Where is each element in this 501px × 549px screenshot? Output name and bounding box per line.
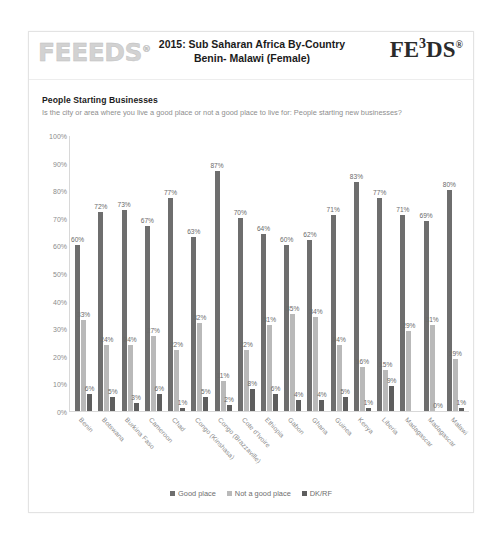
- x-axis-label-cell: Liberia: [374, 414, 397, 466]
- bar[interactable]: 5%: [343, 397, 348, 411]
- bar[interactable]: 73%: [122, 210, 127, 411]
- bar[interactable]: 62%: [307, 240, 312, 411]
- bar[interactable]: 77%: [168, 198, 173, 411]
- bar[interactable]: 24%: [337, 345, 342, 411]
- bar-value-label: 8%: [247, 380, 257, 388]
- page-title-line1: 2015: Sub Saharan Africa By-Country: [147, 37, 357, 51]
- bar-value-label: 11%: [217, 372, 230, 380]
- x-axis-label-cell: Burkina Faso: [118, 414, 141, 466]
- bar-value-label: 1%: [457, 399, 467, 407]
- bar[interactable]: 24%: [104, 345, 109, 411]
- bar[interactable]: 60%: [75, 245, 80, 411]
- feeeds-logo-text: FEEEDS: [38, 38, 142, 67]
- bar[interactable]: 29%: [406, 331, 411, 411]
- bar[interactable]: 5%: [110, 397, 115, 411]
- bar-group: 62%34%4%: [304, 136, 327, 411]
- legend-label: Not a good place: [235, 489, 291, 498]
- bar-value-label: 22%: [240, 341, 253, 349]
- bar-group: 80%19%1%: [444, 136, 467, 411]
- bar[interactable]: 27%: [151, 336, 156, 411]
- bar[interactable]: 67%: [145, 226, 150, 411]
- page-title: 2015: Sub Saharan Africa By-Country Beni…: [147, 37, 357, 65]
- bar-value-label: 33%: [77, 311, 90, 319]
- bar[interactable]: 31%: [267, 325, 272, 411]
- bar[interactable]: 71%: [331, 215, 336, 411]
- bar-value-label: 34%: [309, 308, 322, 316]
- bar[interactable]: 1%: [180, 408, 185, 411]
- bar-group: 70%22%8%: [235, 136, 258, 411]
- bar[interactable]: 15%: [383, 370, 388, 411]
- bar[interactable]: 71%: [400, 215, 405, 411]
- x-axis-label-cell: Benin: [71, 414, 94, 466]
- bar-value-label: 70%: [234, 209, 247, 217]
- y-axis-tick: 30%: [53, 326, 67, 333]
- bar-value-label: 1%: [364, 399, 374, 407]
- bar[interactable]: 83%: [354, 182, 359, 411]
- x-axis-label-cell: Ethiopia: [257, 414, 280, 466]
- x-axis-label: Chad: [171, 416, 187, 433]
- bar[interactable]: 63%: [191, 237, 196, 411]
- bar[interactable]: 31%: [430, 325, 435, 411]
- bar-value-label: 72%: [94, 203, 107, 211]
- y-axis-tick: 90%: [53, 160, 67, 167]
- bar[interactable]: 33%: [81, 320, 86, 411]
- bar-value-label: 71%: [327, 206, 340, 214]
- x-axis-label-cell: Cameroon: [141, 414, 164, 466]
- bar-value-label: 5%: [108, 388, 118, 396]
- bar-group: 67%27%6%: [142, 136, 165, 411]
- bar-value-label: 32%: [193, 314, 206, 322]
- bar-value-label: 67%: [141, 217, 154, 225]
- legend-label: Good place: [178, 489, 216, 498]
- bar[interactable]: 4%: [319, 400, 324, 411]
- fe3ds-logo-registered: ®: [456, 39, 463, 50]
- fe3ds-logo: FE3DS®: [390, 36, 463, 63]
- bar[interactable]: 1%: [366, 408, 371, 411]
- bar[interactable]: 9%: [389, 386, 394, 411]
- legend-item[interactable]: DK/RF: [302, 489, 332, 498]
- bar-value-label: 77%: [373, 189, 386, 197]
- legend-swatch: [302, 491, 307, 496]
- bar[interactable]: 6%: [157, 394, 162, 411]
- bar-value-label: 60%: [280, 236, 293, 244]
- bar[interactable]: 2%: [227, 405, 232, 411]
- bar-group: 72%24%5%: [95, 136, 118, 411]
- report-card: FEEEDS® 2015: Sub Saharan Africa By-Coun…: [28, 31, 474, 513]
- bar[interactable]: 60%: [284, 245, 289, 411]
- y-axis-tick: 100%: [49, 133, 67, 140]
- x-axis-label: Malawi: [450, 416, 470, 436]
- legend-item[interactable]: Good place: [170, 489, 216, 498]
- legend-swatch: [227, 491, 232, 496]
- bar[interactable]: 3%: [134, 403, 139, 411]
- bar-value-label: 2%: [224, 396, 234, 404]
- bar[interactable]: 6%: [87, 394, 92, 411]
- legend-item[interactable]: Not a good place: [227, 489, 291, 498]
- bar[interactable]: 5%: [203, 397, 208, 411]
- bar[interactable]: 80%: [447, 190, 452, 411]
- x-axis-label-cell: Guinea: [327, 414, 350, 466]
- bar[interactable]: 70%: [238, 218, 243, 411]
- plot-area: 60%33%6%72%24%5%73%24%3%67%27%6%77%22%1%…: [69, 136, 469, 412]
- bar-group: 69%31%0%: [421, 136, 444, 411]
- bar[interactable]: 77%: [377, 198, 382, 411]
- bar[interactable]: 72%: [98, 212, 103, 411]
- bar-value-label: 19%: [449, 350, 462, 358]
- bar-value-label: 3%: [131, 394, 141, 402]
- bar-value-label: 1%: [178, 399, 188, 407]
- bar[interactable]: 1%: [459, 408, 464, 411]
- legend-label: DK/RF: [310, 489, 332, 498]
- header-divider: [29, 79, 473, 80]
- bar-value-label: 71%: [396, 206, 409, 214]
- bar-value-label: 31%: [426, 316, 439, 324]
- x-axis-label-cell: Kenya: [351, 414, 374, 466]
- bar-group: 71%24%5%: [328, 136, 351, 411]
- bar[interactable]: 4%: [296, 400, 301, 411]
- bar-group: 71%29%: [397, 136, 420, 411]
- fe3ds-logo-suffix: DS: [426, 37, 455, 62]
- bar-value-label: 4%: [294, 391, 304, 399]
- x-axis-label-cell: Gabon: [281, 414, 304, 466]
- bar-group: 83%16%1%: [351, 136, 374, 411]
- bar[interactable]: 32%: [197, 323, 202, 411]
- bar[interactable]: 8%: [250, 389, 255, 411]
- x-axis-label-cell: Ghana: [304, 414, 327, 466]
- bar[interactable]: 6%: [273, 394, 278, 411]
